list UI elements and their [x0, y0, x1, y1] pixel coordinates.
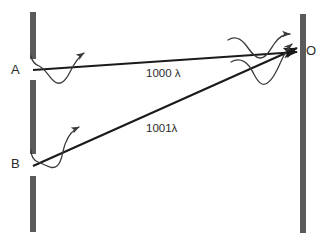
left-barrier-segment-top — [30, 12, 36, 59]
left-barrier — [30, 12, 36, 232]
ray-b-to-o — [33, 48, 297, 166]
left-barrier-segment-bottom — [30, 176, 36, 232]
wavelet-at-b-curve — [31, 127, 79, 167]
physics-diagram — [0, 0, 322, 242]
diagram-canvas: A B O 1000 λ 1001λ — [0, 0, 322, 242]
path-length-label-1001-lambda: 1001λ — [146, 123, 177, 135]
path-length-label-1000-lambda: 1000 λ — [146, 68, 181, 80]
observation-point-label-o: O — [306, 44, 316, 57]
left-barrier-segment-middle — [30, 80, 36, 154]
ray-b-to-o-line — [33, 48, 297, 166]
source-label-b: B — [11, 157, 20, 170]
source-label-a: A — [11, 63, 20, 76]
wavelet-at-b — [31, 127, 79, 167]
